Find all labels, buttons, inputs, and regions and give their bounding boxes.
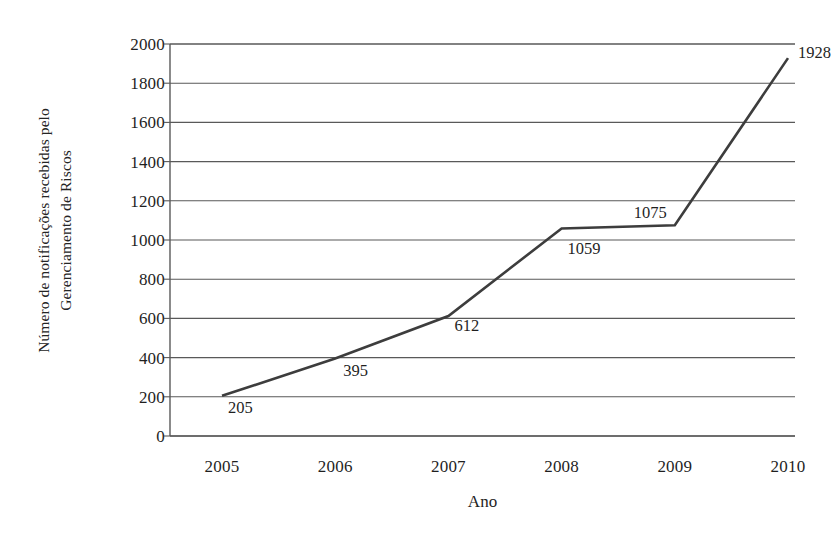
plot-area: 205395612105910751928 [0, 0, 839, 542]
data-point-label: 205 [228, 398, 253, 417]
data-point-label: 1059 [568, 239, 601, 258]
axis-ticks [164, 44, 170, 436]
data-point-label: 1928 [798, 43, 831, 62]
data-point-label: 395 [343, 361, 368, 380]
gridlines [170, 44, 795, 436]
data-point-label: 612 [454, 316, 479, 335]
chart-figure: Número de notificações recebidas pelo Ge… [0, 0, 839, 542]
data-series-line [222, 58, 788, 396]
data-point-label: 1075 [634, 203, 667, 222]
series-line-notificacoes [222, 58, 788, 396]
data-point-labels: 205395612105910751928 [228, 43, 831, 417]
